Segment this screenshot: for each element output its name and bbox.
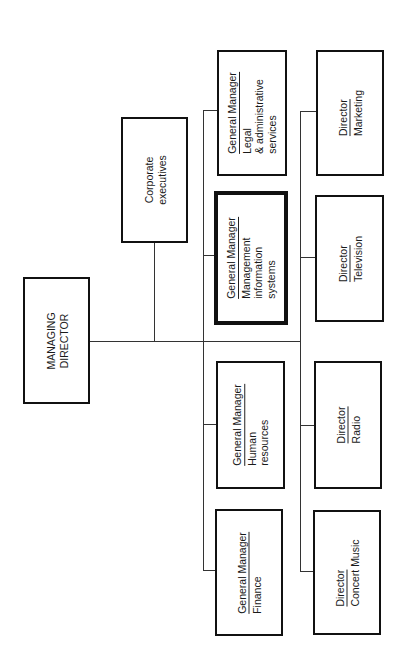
trunk-directors	[300, 111, 301, 571]
corporate-executives-line-1: Corporate	[142, 155, 155, 205]
managing-director-line-1: MANAGING	[44, 312, 57, 369]
dir-television-line-1: Television	[351, 235, 364, 281]
gm-hr-box: General Manager Human resources	[216, 361, 285, 489]
gm-legal-line-3: services	[266, 72, 279, 154]
dir-radio-line-1: Radio	[349, 407, 362, 444]
dir-radio-box: Director Radio	[314, 361, 382, 489]
dir-radio-title: Director	[335, 407, 349, 444]
gm-legal-title: General Manager	[226, 72, 240, 154]
gm-legal-line-1: Legal	[241, 72, 254, 154]
connector-gm-legal	[203, 110, 217, 111]
managing-director-box: MANAGING DIRECTOR	[23, 277, 90, 404]
gm-mis-box: General Manager Management information s…	[214, 191, 288, 325]
dir-concert-music-title: Director	[334, 569, 348, 606]
gm-hr-title: General Manager	[231, 384, 245, 466]
dir-television-box: Director Television	[315, 195, 384, 322]
gm-mis-line-2: information	[252, 217, 265, 299]
gm-hr-line-1: Human	[245, 384, 258, 466]
corporate-executives-box: Corporate executives	[121, 117, 188, 243]
managing-director-line-2: DIRECTOR	[57, 312, 70, 369]
gm-legal-line-2: & administrative	[253, 72, 266, 154]
connector-dir-television	[300, 257, 315, 258]
connector-gm-hr	[203, 424, 217, 425]
connector-dir-radio	[300, 425, 315, 426]
dir-marketing-line-1: Marketing	[351, 90, 364, 136]
dir-television-title: Director	[336, 245, 350, 282]
gm-mis-title: General Manager	[225, 217, 239, 299]
connector-dir-concert-music	[300, 571, 314, 572]
dir-concert-music-box: Director Concert Music	[313, 510, 381, 635]
dir-concert-music-line-1: Concert Music	[348, 539, 361, 606]
dir-marketing-title: Director	[337, 99, 351, 136]
connector-md-to-trunk	[89, 341, 300, 342]
gm-mis-line-1: Management	[240, 217, 253, 299]
gm-mis-line-3: systems	[265, 217, 278, 299]
gm-hr-line-2: resources	[258, 384, 271, 466]
trunk-general-managers	[203, 110, 204, 571]
gm-finance-title: General Manager	[236, 532, 250, 614]
gm-finance-box: General Manager Finance	[215, 509, 283, 636]
gm-legal-box: General Manager Legal & administrative s…	[217, 50, 287, 176]
connector-dir-marketing	[300, 111, 316, 112]
corporate-executives-line-2: executives	[155, 155, 168, 205]
dir-marketing-box: Director Marketing	[316, 50, 384, 176]
gm-finance-line-1: Finance	[250, 532, 263, 614]
connector-corporate-executives	[154, 242, 155, 342]
